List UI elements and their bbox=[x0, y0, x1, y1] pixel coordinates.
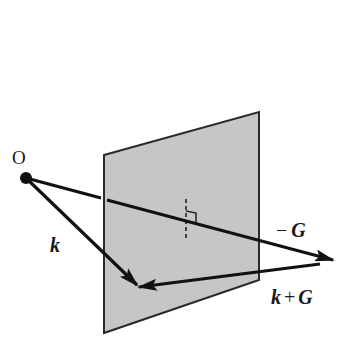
origin-point bbox=[20, 172, 32, 184]
bragg-plane bbox=[104, 112, 259, 333]
k-plus-g-label: k+G bbox=[271, 286, 313, 308]
bragg-plane-diagram: O k −G k+G bbox=[0, 0, 355, 352]
k-symbol: k bbox=[271, 286, 281, 308]
g-symbol: G bbox=[298, 286, 313, 308]
k-label: k bbox=[50, 234, 60, 256]
origin-label: O bbox=[12, 147, 26, 168]
g-symbol: G bbox=[291, 219, 306, 241]
minus-g-label: −G bbox=[276, 219, 306, 241]
minus-sign: − bbox=[276, 219, 287, 241]
plus-sign: + bbox=[284, 286, 295, 308]
